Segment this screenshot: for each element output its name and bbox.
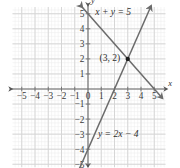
equation-label-line2: y = 2x − 4 (97, 128, 139, 139)
y-tick-label: 5 (80, 9, 85, 19)
x-tick-label: 0 (86, 91, 91, 101)
x-tick-label: 1 (99, 91, 104, 101)
y-tick-label: −4 (74, 145, 84, 155)
x-tick-label: 5 (152, 91, 157, 101)
y-tick-label: 4 (80, 24, 85, 34)
x-tick-label: 3 (125, 91, 130, 101)
y-tick-label: −1 (74, 99, 84, 109)
x-tick-label: −5 (17, 91, 27, 101)
y-tick-label: 3 (80, 39, 85, 49)
x-tick-label: −4 (30, 91, 40, 101)
equation-label-line1: x + y = 5 (94, 6, 131, 17)
y-tick-label: 1 (80, 69, 85, 79)
graph-svg: −5−4−3−2−1012345 −5−4−3−2−112345 x y x +… (0, 0, 180, 168)
y-axis-label: y (90, 0, 95, 5)
intersection-marker (126, 57, 130, 61)
x-tick-label: −3 (43, 91, 53, 101)
x-tick-label: 4 (139, 91, 144, 101)
coordinate-plane-figure: −5−4−3−2−1012345 −5−4−3−2−112345 x y x +… (0, 0, 180, 168)
plotted-lines (79, 6, 162, 168)
intersection-point-label: (3, 2) (99, 52, 120, 64)
y-tick-label: 2 (80, 54, 85, 64)
y-tick-label: −2 (74, 115, 84, 125)
y-tick-label: −3 (74, 130, 84, 140)
plot-line-2 (79, 6, 151, 168)
x-axis-label: x (167, 79, 172, 88)
x-tick-label: −2 (57, 91, 67, 101)
intersection-dot (126, 57, 130, 61)
plot-line-1 (82, 7, 162, 98)
